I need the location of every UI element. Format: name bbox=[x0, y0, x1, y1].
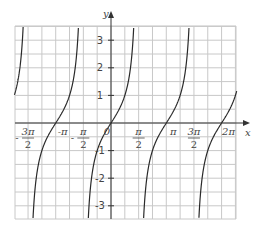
x-tick-label-num: 3π bbox=[187, 126, 200, 137]
y-tick-label: -3 bbox=[95, 200, 105, 211]
tangent-graph: xy 321-1-2-3-3π2-π-π20π2π3π22π bbox=[0, 0, 265, 235]
y-tick-label: -1 bbox=[95, 145, 105, 156]
x-tick-label: -π bbox=[58, 126, 68, 137]
x-tick-label-den: 2 bbox=[191, 139, 197, 150]
x-tick-label: 2π bbox=[221, 126, 235, 137]
svg-text:-: - bbox=[71, 132, 74, 143]
y-tick-label: 3 bbox=[97, 35, 103, 46]
x-tick-label-den: 2 bbox=[80, 139, 86, 150]
svg-text:-: - bbox=[15, 132, 18, 143]
x-tick-label-num: π bbox=[79, 126, 87, 137]
y-axis-label: y bbox=[102, 8, 109, 19]
x-tick-label-den: 2 bbox=[25, 139, 31, 150]
tan-branch bbox=[199, 91, 237, 218]
x-tick-label-den: 2 bbox=[135, 139, 141, 150]
tan-branch bbox=[14, 27, 23, 95]
y-axis-arrow-icon bbox=[108, 11, 114, 18]
y-tick-label: 1 bbox=[97, 90, 103, 101]
y-tick-label: -2 bbox=[95, 173, 105, 184]
x-axis-arrow-icon bbox=[243, 120, 250, 126]
x-tick-label: 0 bbox=[104, 126, 111, 137]
x-tick-label-num: 3π bbox=[22, 126, 35, 137]
x-axis-label: x bbox=[245, 127, 251, 138]
tan-curve bbox=[14, 27, 236, 218]
y-tick-label: 2 bbox=[97, 62, 103, 73]
x-tick-label: π bbox=[169, 126, 177, 137]
x-tick-label-num: π bbox=[134, 126, 142, 137]
